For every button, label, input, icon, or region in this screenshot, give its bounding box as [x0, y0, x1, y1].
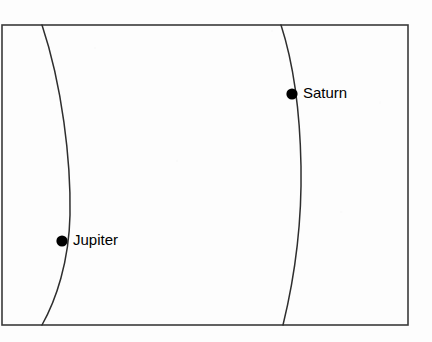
- saturn-marker-dot: [286, 88, 297, 99]
- orbit-diagram: Jupiter Saturn: [0, 0, 432, 342]
- jupiter-orbit-curve: [42, 25, 70, 325]
- jupiter-marker-dot: [56, 235, 67, 246]
- diagram-canvas: Jupiter Saturn: [0, 0, 432, 342]
- diagram-frame: [2, 25, 408, 325]
- jupiter-label: Jupiter: [73, 231, 118, 248]
- saturn-orbit-curve: [281, 25, 301, 325]
- saturn-label: Saturn: [303, 84, 347, 101]
